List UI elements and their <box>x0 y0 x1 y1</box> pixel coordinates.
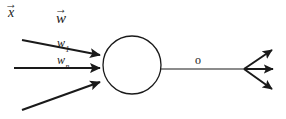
output-edge-up <box>244 50 272 69</box>
input-edge-bottom <box>22 82 100 110</box>
output-edge-down <box>244 69 272 89</box>
weight-first-label: w1 <box>57 37 69 52</box>
neuron-diagram-figure: → x → w w1 wn o <box>0 0 286 119</box>
neuron-soma-circle <box>103 36 161 94</box>
output-label: o <box>195 54 201 66</box>
weight-first-subscript: 1 <box>65 45 69 54</box>
weight-vector-label: → w <box>56 11 66 26</box>
input-vector-symbol: x <box>8 5 14 20</box>
weight-last-label: wn <box>57 54 69 69</box>
input-vector-label: → x <box>8 6 14 20</box>
weight-last-subscript: n <box>65 62 69 71</box>
weight-last-symbol: w <box>57 53 65 67</box>
diagram-canvas <box>0 0 286 119</box>
weight-vector-symbol: w <box>56 10 66 26</box>
weight-first-symbol: w <box>57 36 65 50</box>
